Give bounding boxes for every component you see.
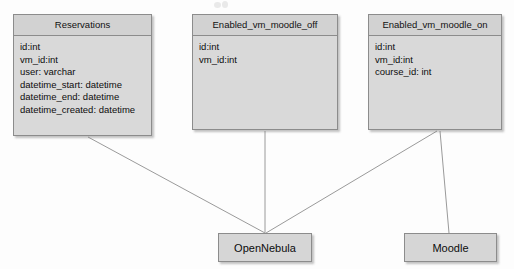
entity-attribute: vm_id:int <box>199 54 337 67</box>
entity-enabled-vm-moodle-on[interactable]: Enabled_vm_moodle_on id:int vm_id:int co… <box>368 14 502 130</box>
entity-attribute: datetime_created: datetime <box>20 104 151 117</box>
entity-title: Reservations <box>14 15 151 36</box>
entity-attribute-list: id:int vm_id:int course_id: int <box>369 36 501 129</box>
scan-artifact <box>214 2 221 8</box>
node-label: OpenNebula <box>234 242 296 254</box>
node-moodle[interactable]: Moodle <box>404 233 497 262</box>
node-opennebula[interactable]: OpenNebula <box>218 233 312 262</box>
entity-attribute: user: varchar <box>20 66 151 79</box>
entity-attribute-list: id:int vm_id:int <box>193 36 337 129</box>
edge-enabled-on-to-moodle <box>440 131 449 233</box>
node-label: Moodle <box>432 242 468 254</box>
entity-reservations[interactable]: Reservations id:int vm_id:int user: varc… <box>13 14 152 136</box>
edge-enabled-on-to-opennebula <box>266 131 437 233</box>
entity-attribute: id:int <box>199 41 337 54</box>
entity-attribute: id:int <box>375 41 501 54</box>
entity-attribute: datetime_end: datetime <box>20 91 151 104</box>
scan-artifact <box>222 1 228 8</box>
entity-title: Enabled_vm_moodle_off <box>193 15 337 36</box>
entity-enabled-vm-moodle-off[interactable]: Enabled_vm_moodle_off id:int vm_id:int <box>192 14 338 130</box>
entity-attribute: vm_id:int <box>20 54 151 67</box>
entity-attribute: course_id: int <box>375 66 501 79</box>
edge-reservations-to-opennebula <box>88 137 265 233</box>
entity-attribute: id:int <box>20 41 151 54</box>
entity-attribute: datetime_start: datetime <box>20 79 151 92</box>
entity-attribute: vm_id:int <box>375 54 501 67</box>
entity-title: Enabled_vm_moodle_on <box>369 15 501 36</box>
entity-attribute-list: id:int vm_id:int user: varchar datetime_… <box>14 36 151 135</box>
diagram-canvas: Reservations id:int vm_id:int user: varc… <box>0 0 514 269</box>
